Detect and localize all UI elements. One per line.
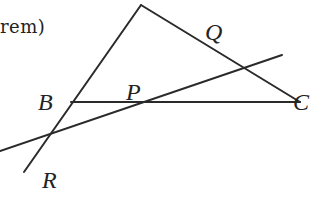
geometry-diagram: B P C Q R	[0, 0, 313, 199]
label-p: P	[125, 79, 141, 105]
label-r: R	[41, 167, 57, 193]
label-b: B	[38, 89, 53, 115]
label-c: C	[293, 89, 310, 115]
label-q: Q	[205, 19, 222, 45]
